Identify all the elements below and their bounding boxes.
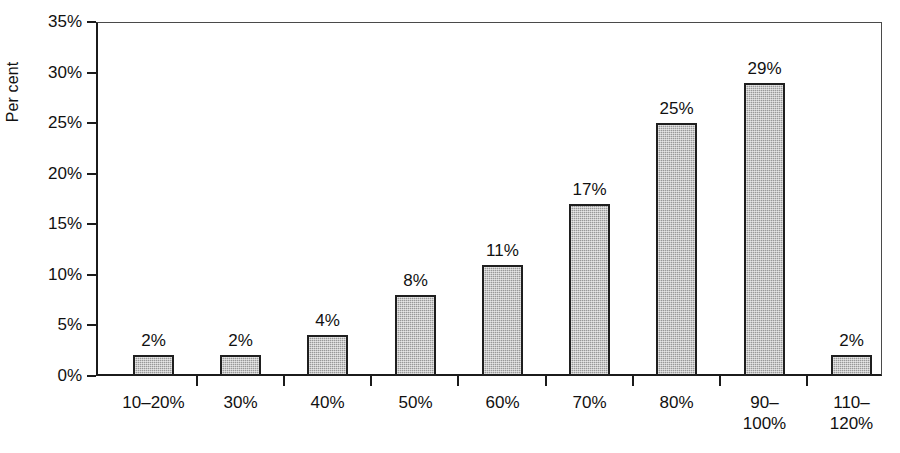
x-tick-mark-8: [806, 376, 808, 386]
x-axis-label-2: 40%: [277, 392, 378, 413]
y-tick-label-5: 5%: [14, 316, 82, 333]
bar-value-1: 2%: [205, 332, 276, 349]
bar-2: [307, 335, 348, 376]
y-tick-label-text: 0%: [18, 367, 82, 384]
y-tick-mark-25: [87, 122, 96, 124]
y-tick-label-10: 10%: [14, 266, 82, 283]
x-tick-mark-2: [283, 376, 285, 386]
y-tick-label-15: 15%: [14, 215, 82, 232]
y-tick-label-text: 20%: [18, 165, 82, 182]
bar-6: [656, 123, 697, 376]
y-tick-label-text: 5%: [18, 316, 82, 333]
x-tick-mark-5: [545, 376, 547, 386]
y-tick-mark-30: [87, 72, 96, 74]
x-axis-label-1: 30%: [190, 392, 291, 413]
y-tick-label-text: 25%: [18, 114, 82, 131]
x-axis-label-3: 50%: [365, 392, 466, 413]
y-tick-mark-0: [87, 375, 96, 377]
y-tick-label-20: 20%: [14, 165, 82, 182]
x-axis-label-6: 80%: [626, 392, 727, 413]
x-tick-mark-6: [632, 376, 634, 386]
y-axis-title: Per cent: [4, 22, 26, 162]
y-tick-label-0: 0%: [14, 367, 82, 384]
y-tick-mark-5: [87, 324, 96, 326]
bar-value-3: 8%: [380, 272, 451, 289]
bar-value-4: 11%: [467, 242, 538, 259]
bar-value-8: 2%: [816, 332, 887, 349]
y-tick-mark-35: [87, 21, 96, 23]
x-tick-mark-1: [196, 376, 198, 386]
x-axis-label-8: 110– 120%: [801, 392, 900, 434]
bar-chart: Per cent 35% 30% 25% 20% 15% 10% 5% 0% 2…: [0, 0, 900, 453]
bar-3: [395, 295, 436, 376]
bar-5: [569, 204, 610, 376]
bar-value-2: 4%: [292, 312, 363, 329]
y-tick-label-35: 35%: [14, 13, 82, 30]
y-tick-label-text: 15%: [18, 215, 82, 232]
bar-4: [482, 265, 523, 376]
y-tick-label-25: 25%: [14, 114, 82, 131]
x-tick-mark-3: [370, 376, 372, 386]
bar-value-5: 17%: [554, 181, 625, 198]
x-axis-label-7: 90– 100%: [714, 392, 815, 434]
x-tick-mark-4: [457, 376, 459, 386]
bar-8: [831, 355, 872, 376]
bar-value-6: 25%: [641, 100, 712, 117]
x-axis-label-0: 10–20%: [103, 392, 204, 413]
y-tick-mark-10: [87, 274, 96, 276]
x-tick-mark-7: [719, 376, 721, 386]
y-tick-mark-20: [87, 173, 96, 175]
bar-1: [220, 355, 261, 376]
y-tick-label-text: 10%: [18, 266, 82, 283]
y-tick-mark-15: [87, 223, 96, 225]
bar-7: [744, 83, 785, 376]
y-tick-label-text: 35%: [18, 13, 82, 30]
y-tick-label-30: 30%: [14, 64, 82, 81]
bar-value-7: 29%: [729, 60, 800, 77]
bar-value-0: 2%: [118, 332, 189, 349]
x-axis-label-5: 70%: [539, 392, 640, 413]
y-tick-label-text: 30%: [18, 64, 82, 81]
x-axis-label-4: 60%: [452, 392, 553, 413]
bar-0: [133, 355, 174, 376]
